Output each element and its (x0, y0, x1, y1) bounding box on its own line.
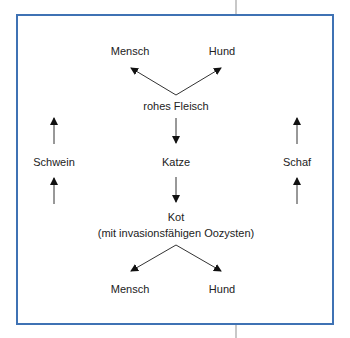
label-dog-bottom: Hund (209, 282, 235, 296)
label-feces: Kot (168, 210, 185, 224)
label-pig: Schwein (33, 155, 75, 169)
arrows-layer (0, 0, 350, 338)
arrow-meat-to-human (131, 68, 176, 95)
label-sheep: Schaf (283, 155, 311, 169)
arrow-feces-to-human (131, 245, 176, 271)
label-dog-top: Hund (209, 44, 235, 58)
label-cat: Katze (162, 155, 190, 169)
arrow-meat-to-dog (176, 68, 221, 95)
label-human-top: Mensch (111, 44, 150, 58)
label-raw-meat: rohes Fleisch (143, 99, 208, 113)
label-human-bottom: Mensch (111, 282, 150, 296)
arrow-feces-to-dog (176, 245, 221, 271)
label-feces-detail: (mit invasionsfähigen Oozysten) (98, 226, 255, 240)
